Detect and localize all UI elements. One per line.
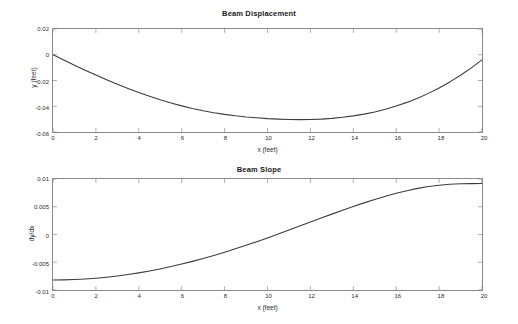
axes-slope: 024681012141618200.010.0050-0.005-0.01 <box>52 178 483 291</box>
x-axis-label-slope: x (feet) <box>52 304 483 311</box>
x-tick-label: 4 <box>138 293 141 299</box>
y-tick-label: 0.01 <box>37 176 49 182</box>
displacement-curve-svg <box>53 29 482 132</box>
axes-displacement: 024681012141618200.020-0.02-0.04-0.06 <box>52 28 483 133</box>
x-tick-label: 6 <box>181 135 184 141</box>
x-tick-label: 4 <box>138 135 141 141</box>
x-tick-label: 20 <box>481 135 488 141</box>
plot-title-slope: Beam Slope <box>0 165 518 174</box>
x-tick-label: 2 <box>94 293 97 299</box>
data-series-line <box>53 55 482 120</box>
y-tick-label: 0.005 <box>34 204 49 210</box>
y-tick-label: -0.04 <box>35 105 49 111</box>
x-tick-label: 16 <box>394 135 401 141</box>
x-tick-label: 14 <box>351 293 358 299</box>
y-tick-label: 0 <box>46 52 49 58</box>
x-tick-label: 18 <box>438 293 445 299</box>
y-tick-label: 0.02 <box>37 26 49 32</box>
x-tick-label: 0 <box>51 293 54 299</box>
plot-title-displacement: Beam Displacement <box>0 9 518 18</box>
y-axis-label-slope: dy/dx <box>28 214 35 254</box>
x-tick-label: 6 <box>181 293 184 299</box>
x-tick-label: 10 <box>265 135 272 141</box>
x-tick-label: 12 <box>308 293 315 299</box>
x-axis-label-displacement: x (feet) <box>52 146 483 153</box>
x-tick-label: 14 <box>351 135 358 141</box>
subplot-beam-slope: Beam Slope dy/dx 024681012141618200.010.… <box>0 162 518 324</box>
matlab-figure: Beam Displacement y (feet) 0246810121416… <box>0 0 518 324</box>
x-tick-label: 18 <box>438 135 445 141</box>
x-tick-label: 10 <box>265 293 272 299</box>
y-axis-label-displacement: y (feet) <box>30 58 37 98</box>
data-series-line <box>53 184 482 280</box>
x-tick-label: 20 <box>481 293 488 299</box>
x-tick-label: 2 <box>94 135 97 141</box>
x-tick-label: 8 <box>224 135 227 141</box>
x-tick-label: 8 <box>224 293 227 299</box>
y-tick-label: -0.01 <box>35 289 49 295</box>
y-tick-label: 0 <box>46 233 49 239</box>
y-tick-label: -0.005 <box>32 261 49 267</box>
y-tick-label: -0.06 <box>35 131 49 137</box>
x-tick-label: 16 <box>394 293 401 299</box>
x-tick-label: 0 <box>51 135 54 141</box>
slope-curve-svg <box>53 179 482 290</box>
subplot-beam-displacement: Beam Displacement y (feet) 0246810121416… <box>0 0 518 162</box>
y-tick-label: -0.02 <box>35 79 49 85</box>
x-tick-label: 12 <box>308 135 315 141</box>
